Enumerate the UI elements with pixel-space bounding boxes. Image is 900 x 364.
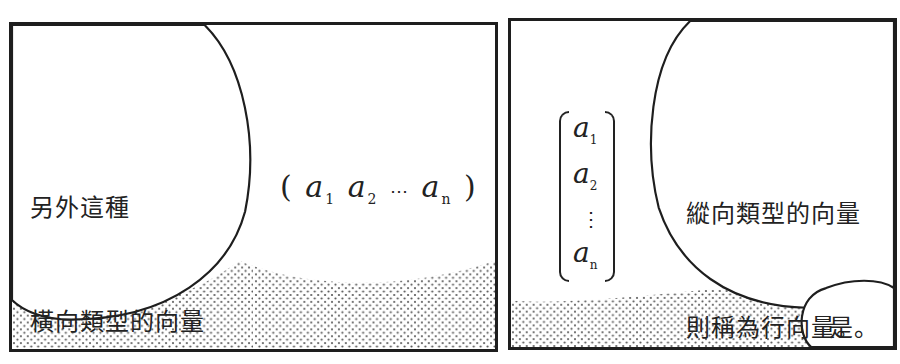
row-vector: ( a1 a2 ⋯ an ) [280, 169, 478, 207]
vector-entry: a1 [573, 111, 597, 157]
vector-entry: a2 [348, 169, 379, 204]
speech-line: 另外這種 [30, 189, 205, 227]
vector-entry: an [573, 236, 597, 282]
vector-entry: a2 [573, 157, 597, 203]
column-vector-entries: a1 a2 ⋮ an [569, 111, 605, 282]
vector-entry: a1 [305, 169, 336, 204]
comic-panel-2: a1 a2 ⋮ an 縱向類型的向量 則稱為行向量。 是。 [508, 18, 897, 350]
left-bracket [559, 111, 569, 282]
vector-entry: an [422, 169, 453, 204]
vertical-ellipsis: ⋮ [573, 202, 601, 236]
speech-bubble-text: 另外這種 橫向類型的向量 稱為列向量。 [30, 113, 205, 352]
close-paren: ) [464, 169, 478, 204]
small-bubble-text: 是。 [829, 309, 879, 347]
open-paren: ( [280, 169, 294, 204]
ellipsis: ⋯ [390, 180, 410, 201]
speech-line: 橫向類型的向量 [30, 303, 205, 341]
comic-panel-1: 另外這種 橫向類型的向量 稱為列向量。 ( a1 a2 ⋯ an ) [9, 22, 498, 352]
speech-line: 縱向類型的向量 [686, 195, 861, 233]
right-bracket [605, 111, 615, 282]
column-vector: a1 a2 ⋮ an [559, 111, 615, 282]
